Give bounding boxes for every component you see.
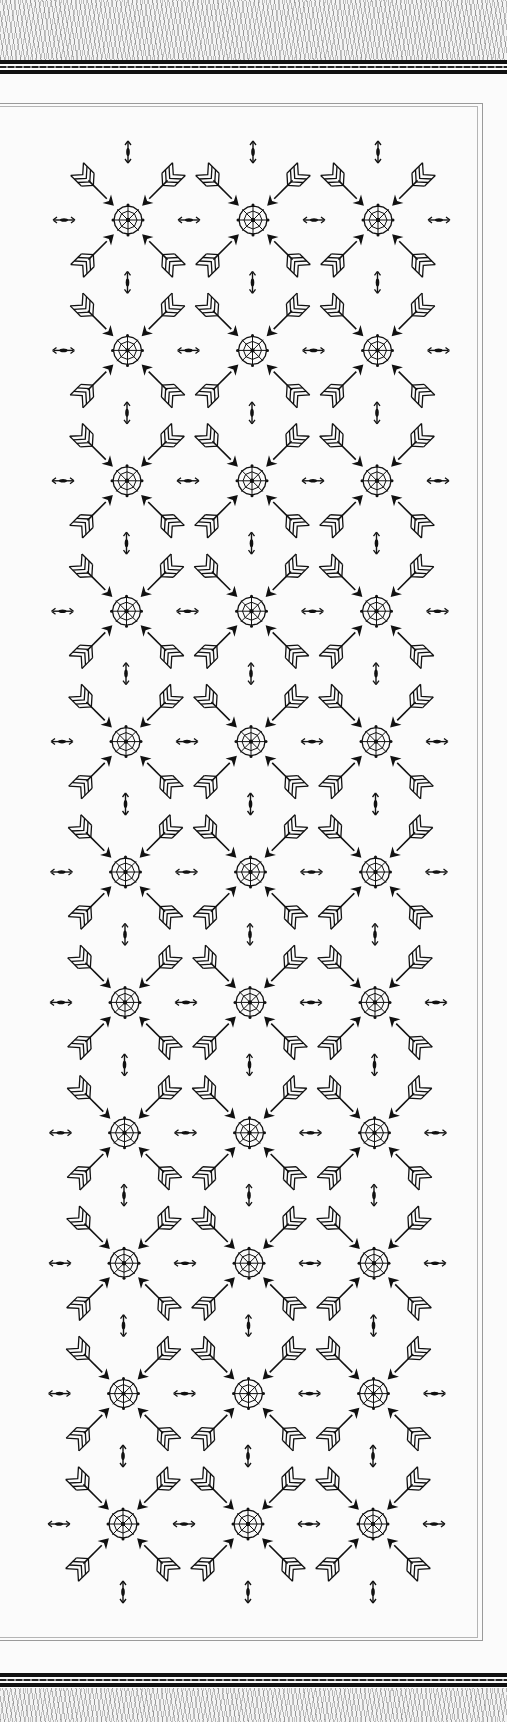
compass-arrow-motif	[302, 402, 434, 538]
compass-arrow-motif	[53, 141, 185, 277]
compass-arrow-motif	[300, 923, 432, 1059]
compass-arrow-motif	[174, 1184, 306, 1320]
double-arrow-horizontal-icon	[423, 1521, 445, 1527]
double-arrow-horizontal-icon	[425, 1130, 447, 1136]
compass-arrow-motif	[174, 1315, 306, 1451]
compass-arrow-motif	[48, 1445, 180, 1581]
double-arrow-vertical-icon	[370, 1581, 376, 1603]
double-arrow-vertical-icon	[245, 1581, 251, 1603]
compass-arrow-motif	[173, 1445, 305, 1581]
compass-arrow-motif	[301, 663, 433, 799]
compass-arrow-motif	[49, 1184, 181, 1320]
bottom-border-rule-thick	[0, 1673, 507, 1677]
compass-arrow-motif	[49, 1315, 181, 1451]
double-arrow-horizontal-icon	[427, 478, 449, 484]
compass-arrow-motif	[176, 663, 308, 799]
compass-arrow-motif	[299, 1184, 431, 1320]
motif-grid	[48, 141, 450, 1603]
double-arrow-horizontal-icon	[425, 999, 447, 1005]
double-arrow-horizontal-icon	[428, 347, 450, 353]
arrow-compass-pattern	[0, 0, 507, 1722]
compass-arrow-motif	[53, 271, 185, 407]
bottom-border-rule-dashed	[0, 1679, 507, 1681]
double-arrow-horizontal-icon	[427, 608, 449, 614]
compass-arrow-motif	[52, 532, 184, 668]
compass-arrow-motif	[298, 1445, 430, 1581]
double-arrow-horizontal-icon	[424, 1260, 446, 1266]
compass-arrow-motif	[175, 1054, 307, 1190]
compass-arrow-motif	[50, 923, 182, 1059]
double-arrow-horizontal-icon	[424, 1391, 446, 1397]
double-arrow-horizontal-icon	[428, 217, 450, 223]
compass-arrow-motif	[301, 793, 433, 929]
compass-arrow-motif	[51, 663, 183, 799]
double-arrow-vertical-icon	[120, 1581, 126, 1603]
double-arrow-horizontal-icon	[426, 869, 448, 875]
compass-arrow-motif	[52, 402, 184, 538]
compass-arrow-motif	[177, 402, 309, 538]
compass-arrow-motif	[50, 1054, 182, 1190]
compass-arrow-motif	[302, 532, 434, 668]
bottom-engraved-band	[0, 1688, 507, 1722]
compass-arrow-motif	[177, 532, 309, 668]
compass-arrow-motif	[178, 271, 310, 407]
compass-arrow-motif	[303, 271, 435, 407]
compass-arrow-motif	[175, 923, 307, 1059]
compass-arrow-motif	[303, 141, 435, 277]
compass-arrow-motif	[178, 141, 310, 277]
compass-arrow-motif	[51, 793, 183, 929]
compass-arrow-motif	[299, 1315, 431, 1451]
compass-arrow-motif	[176, 793, 308, 929]
compass-arrow-motif	[300, 1054, 432, 1190]
double-arrow-horizontal-icon	[426, 739, 448, 745]
bottom-border-rule-thick-lower	[0, 1683, 507, 1687]
